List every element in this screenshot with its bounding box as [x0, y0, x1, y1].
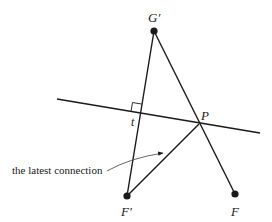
annotation-caption: the latest connection: [12, 164, 103, 176]
label-p: P: [200, 108, 209, 123]
line-gprime-fprime: [127, 31, 154, 196]
reflection-diagram: G′ F′ F P t the latest connection: [0, 0, 272, 222]
mirror-line: [57, 99, 260, 133]
label-t: t: [131, 115, 135, 129]
label-fprime: F′: [120, 204, 132, 219]
point-f: [231, 190, 238, 197]
label-gprime: G′: [148, 10, 160, 25]
line-fprime-p: [127, 124, 199, 196]
point-fprime: [123, 192, 130, 199]
line-gprime-f: [154, 31, 235, 194]
label-f: F: [230, 204, 240, 219]
diagram-canvas: G′ F′ F P t the latest connection: [0, 0, 272, 222]
right-angle-marker: [131, 103, 142, 112]
point-gprime: [150, 27, 157, 34]
